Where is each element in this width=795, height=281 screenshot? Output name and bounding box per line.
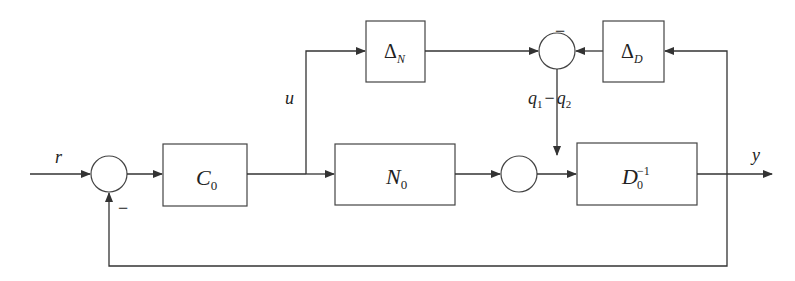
summing-junction-input xyxy=(91,156,127,192)
minus-sign-delta-d: − xyxy=(555,21,565,41)
block-diagram: r − C0 u ΔN − ΔD q1−q2 N0 xyxy=(0,0,795,281)
minus-sign-feedback: − xyxy=(118,198,128,218)
signal-u-label: u xyxy=(285,88,294,108)
summing-junction-plant xyxy=(501,156,537,192)
signal-r-label: r xyxy=(55,147,63,167)
signal-y-label: y xyxy=(750,145,760,165)
signal-q-label: q1−q2 xyxy=(528,88,571,110)
